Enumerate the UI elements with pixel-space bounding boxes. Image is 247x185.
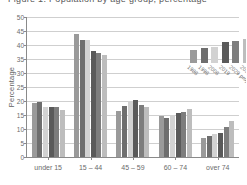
bar: [159, 116, 164, 157]
y-tick-label: 15: [17, 112, 24, 119]
bar: [37, 102, 42, 157]
x-tick-mark: [91, 157, 92, 160]
legend-swatch[interactable]: [222, 42, 229, 63]
x-tick-label: 45 – 59: [121, 164, 144, 171]
bar: [116, 111, 121, 157]
y-tick-label: 45: [17, 28, 24, 35]
chart-title: Figure 1: Population by age group, perce…: [8, 0, 246, 6]
y-tick-label: 50: [17, 14, 24, 21]
y-tick-label: 30: [17, 70, 24, 77]
bar: [32, 103, 37, 157]
x-tick-mark: [48, 157, 49, 160]
legend-swatch[interactable]: [190, 50, 197, 63]
bar: [201, 138, 206, 157]
bar: [91, 51, 96, 157]
x-tick-mark: [218, 157, 219, 160]
y-tick-label: 35: [17, 56, 24, 63]
bar: [164, 118, 169, 157]
bar: [218, 133, 223, 157]
legend-swatch[interactable]: [243, 39, 247, 63]
x-tick-label: under 15: [34, 164, 62, 171]
bar: [49, 107, 54, 157]
y-tick-label: 5: [20, 140, 24, 147]
bar: [122, 106, 127, 157]
chart-page: Figure 1: Population by age group, perce…: [0, 0, 246, 185]
bar: [74, 34, 79, 157]
y-tick-label: 40: [17, 42, 24, 49]
x-tick-label: over 74: [206, 164, 229, 171]
bar: [187, 109, 192, 157]
bar: [170, 115, 175, 157]
bar-group: under 15: [27, 17, 69, 157]
bar: [176, 113, 181, 157]
x-tick-label: 15 – 44: [79, 164, 102, 171]
bar: [207, 136, 212, 157]
y-tick-label: 0: [20, 154, 24, 161]
bar: [144, 107, 149, 157]
legend-swatch[interactable]: [201, 48, 208, 63]
bar: [43, 107, 48, 157]
bar: [181, 112, 186, 157]
y-tick-label: 10: [17, 126, 24, 133]
bar: [85, 40, 90, 157]
bar: [80, 40, 85, 157]
bar-group: 60 – 74: [154, 17, 196, 157]
x-tick-mark: [133, 157, 134, 160]
legend-swatch[interactable]: [211, 47, 218, 63]
bar: [60, 110, 65, 157]
bar: [54, 107, 59, 157]
bar: [133, 100, 138, 157]
legend-swatch[interactable]: [232, 41, 239, 63]
bar-group: 15 – 44: [69, 17, 111, 157]
bar: [212, 134, 217, 157]
x-tick-mark: [175, 157, 176, 160]
bar: [128, 101, 133, 157]
bar: [102, 55, 107, 157]
bar: [96, 53, 101, 157]
chart-legend: 19861996200620192029 projected2039 proje…: [190, 39, 246, 63]
plot-area: Percentage 05101520253035404550 under 15…: [27, 17, 239, 157]
y-axis-label: Percentage: [7, 67, 16, 107]
y-tick-mark: [24, 157, 27, 158]
bar: [139, 105, 144, 157]
x-tick-label: 60 – 74: [164, 164, 187, 171]
bar: [229, 121, 234, 157]
y-tick-label: 25: [17, 84, 24, 91]
y-tick-label: 20: [17, 98, 24, 105]
bar-group: over 74: [197, 17, 239, 157]
bar: [224, 127, 229, 157]
bar-group: 45 – 59: [112, 17, 154, 157]
